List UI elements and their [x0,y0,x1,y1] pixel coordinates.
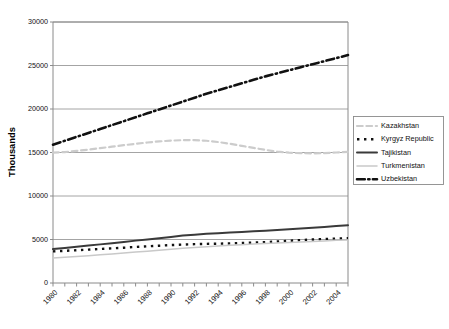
y-tick-label: 25000 [28,61,48,70]
legend-label-kazakhstan: Kazakhstan [381,121,419,130]
x-tick-label: 1996 [230,288,248,306]
chart-legend: KazakhstanKyrgyz RepublicTajikistanTurkm… [354,117,444,185]
x-tick-label: 1994 [206,288,224,306]
legend-label-turkmenistan: Turkmenistan [381,161,425,170]
x-tick-label: 1990 [159,288,177,306]
y-tick-label: 30000 [28,17,48,26]
x-tick-label: 1980 [41,288,59,306]
legend-label-uzbekistan: Uzbekistan [381,174,417,183]
y-tick-label: 20000 [28,104,48,113]
y-tick-label: 10000 [28,191,48,200]
x-tick-label: 1986 [112,288,130,306]
y-axis-title-label: Thousands [6,127,17,177]
legend-label-tajikistan: Tajikistan [381,148,411,157]
y-tick-label: 5000 [32,235,48,244]
x-tick-label: 2000 [277,288,295,306]
line-chart: 050001000015000200002500030000 198019821… [0,0,449,329]
x-tick-label: 1992 [183,288,201,306]
x-tick-label: 1984 [88,288,106,306]
y-tick-label: 0 [44,278,48,287]
x-tick-label: 2004 [324,288,342,306]
legend-label-kyrgyz-republic: Kyrgyz Republic [381,134,434,143]
y-axis-tick-labels: 050001000015000200002500030000 [28,17,48,287]
x-tick-label: 1988 [135,288,153,306]
chart-container: 050001000015000200002500030000 198019821… [0,0,449,329]
x-tick-label: 2002 [301,288,319,306]
x-tick-label: 1998 [253,288,271,306]
x-tick-label: 1982 [65,288,83,306]
x-axis-tick-labels: 1980198219841986198819901992199419961998… [41,288,343,306]
y-axis-title: Thousands [6,127,17,177]
y-tick-label: 15000 [28,148,48,157]
x-axis-ticks [53,283,348,287]
